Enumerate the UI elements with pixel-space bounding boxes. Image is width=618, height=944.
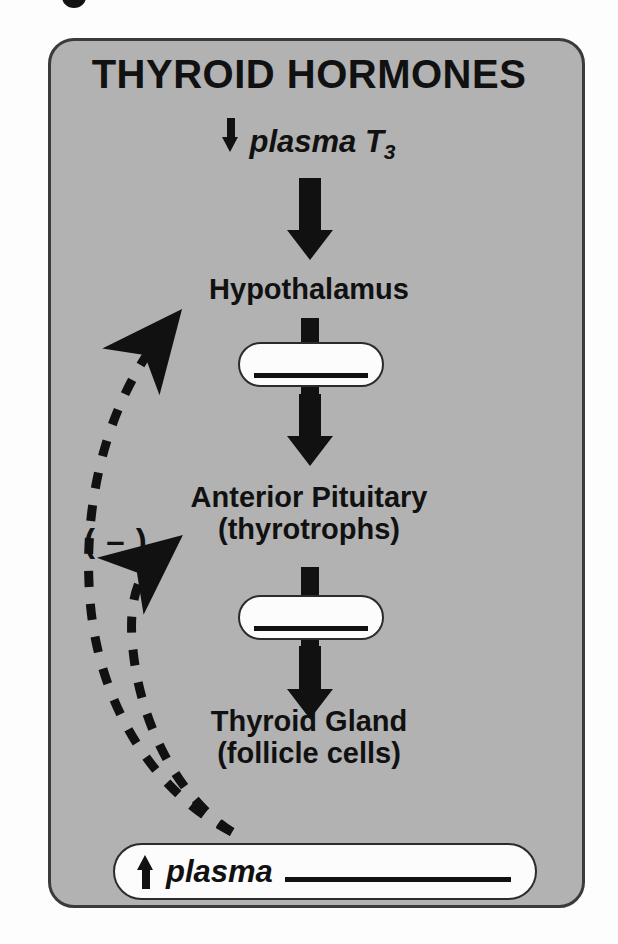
thyroid-axis-diagram-panel <box>48 38 585 908</box>
node-label-thyroid-gland-line2: (follicle cells) <box>0 737 618 769</box>
connector-pituitary-to-hormone-2 <box>301 567 319 595</box>
write-in-line <box>254 626 368 631</box>
flow-arrow-stimulus-to-hypothalamus <box>287 178 333 260</box>
write-in-line <box>254 373 368 378</box>
connector-hypothalamus-to-hormone-1 <box>301 318 319 342</box>
hormone-blank-2[interactable] <box>238 595 384 640</box>
write-in-line <box>285 877 511 882</box>
node-label-thyroid-gland-line1: Thyroid Gland <box>0 705 618 737</box>
hormone-blank-1[interactable] <box>238 342 384 387</box>
node-label-hypothalamus: Hypothalamus <box>0 273 618 305</box>
cut-off-bullet-glyph <box>62 0 86 8</box>
page-title: THYROID HORMONES <box>0 54 618 94</box>
down-arrow-icon <box>222 118 239 152</box>
stimulus-text: plasma T <box>249 124 383 159</box>
plasma-output-label: plasma <box>166 854 273 890</box>
stimulus-subscript: 3 <box>384 140 396 163</box>
stimulus-label: plasma T3 <box>249 124 395 164</box>
node-label-thyroid-gland: Thyroid Gland (follicle cells) <box>0 705 618 770</box>
negative-feedback-sign: ( – ) <box>84 524 148 557</box>
node-label-anterior-pituitary-line1: Anterior Pituitary <box>0 481 618 513</box>
flow-arrow-hormone-1-to-pituitary <box>287 394 333 466</box>
plasma-output-blank[interactable]: plasma <box>113 843 537 900</box>
up-arrow-icon <box>137 855 154 889</box>
stimulus-row: plasma T3 <box>0 118 618 164</box>
